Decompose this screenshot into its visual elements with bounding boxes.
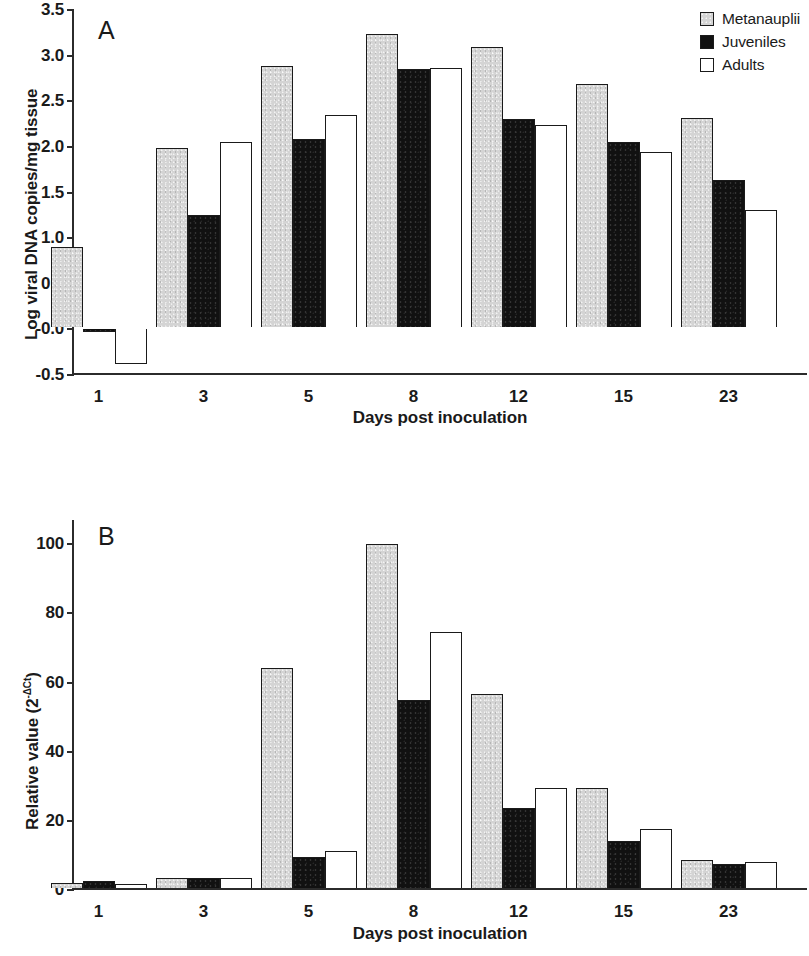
bar-adults-day-15 xyxy=(640,829,672,888)
panel-b-x-axis-label: Days post inoculation xyxy=(353,924,528,944)
x-axis-tick-label: 12 xyxy=(509,387,528,407)
panel-a-plot-area: 3.53.02.52.01.51.00.5-0.0-0.51358121523 xyxy=(72,10,807,375)
bar-adults-day-5 xyxy=(325,851,357,888)
bar-juveniles-day-8 xyxy=(398,700,430,888)
bar-juveniles-day-15 xyxy=(608,841,640,888)
bar-metanauplii-day-23 xyxy=(681,118,713,327)
bar-adults-day-23 xyxy=(745,210,777,328)
y-axis-tick-mark xyxy=(67,820,74,822)
bar-juveniles-day-3 xyxy=(188,215,220,327)
y-axis-tick-mark xyxy=(67,100,74,102)
figure-two-panel-bar-charts: A Log viral DNA copies/mg tissue 3.53.02… xyxy=(0,0,809,956)
bar-metanauplii-day-8 xyxy=(366,34,398,328)
bar-metanauplii-day-8 xyxy=(366,544,398,888)
bar-juveniles-day-23 xyxy=(713,864,745,888)
bar-metanauplii-day-15 xyxy=(576,84,608,328)
bar-adults-day-3 xyxy=(220,142,252,327)
legend-label-adults: Adults xyxy=(722,56,764,74)
y-axis-tick-mark xyxy=(67,682,74,684)
legend-item-metanauplii: Metanauplii xyxy=(700,8,800,29)
y-axis-tick-mark xyxy=(67,374,74,376)
x-axis-tick-label: 8 xyxy=(409,902,418,922)
y-axis-tick-mark xyxy=(67,612,74,614)
x-axis-tick-label: 12 xyxy=(509,902,528,922)
bar-adults-day-12 xyxy=(535,788,567,888)
bar-adults-day-23 xyxy=(745,862,777,888)
legend: Metanauplii Juveniles Adults xyxy=(700,8,800,77)
x-axis-tick-label: 23 xyxy=(719,387,738,407)
bar-adults-day-5 xyxy=(325,115,357,328)
bar-juveniles-day-5 xyxy=(293,857,325,888)
bar-juveniles-day-23 xyxy=(713,180,745,328)
bar-juveniles-day-1 xyxy=(83,329,115,332)
x-axis-tick-label: 15 xyxy=(614,387,633,407)
panel-b-y-axis-label-exponent: -ΔCt xyxy=(22,678,33,699)
bar-juveniles-day-3 xyxy=(188,878,220,888)
legend-swatch-adults-icon xyxy=(700,58,714,72)
x-axis-tick-label: 15 xyxy=(614,902,633,922)
x-axis-tick-label: 1 xyxy=(94,902,103,922)
legend-item-adults: Adults xyxy=(700,54,800,75)
panel-a-y-axis-label: Log viral DNA copies/mg tissue xyxy=(22,89,42,340)
legend-swatch-juveniles-icon xyxy=(700,35,714,49)
y-axis-tick-mark xyxy=(67,237,74,239)
bar-adults-day-15 xyxy=(640,152,672,327)
bar-adults-day-8 xyxy=(430,68,462,327)
x-axis-tick-label: 23 xyxy=(719,902,738,922)
y-axis-tick-mark xyxy=(67,146,74,148)
bar-metanauplii-day-23 xyxy=(681,860,713,888)
bar-metanauplii-day-5 xyxy=(261,66,293,328)
panel-a-x-axis-label: Days post inoculation xyxy=(353,408,528,428)
x-axis-tick-label: 3 xyxy=(199,902,208,922)
bar-juveniles-day-1 xyxy=(83,881,115,888)
bar-metanauplii-day-5 xyxy=(261,668,293,888)
bar-adults-day-1 xyxy=(115,884,147,888)
bar-juveniles-day-15 xyxy=(608,142,640,327)
panel-b-y-axis-label: Relative value (2-ΔCt) xyxy=(22,672,43,830)
bar-juveniles-day-12 xyxy=(503,119,535,327)
panel-b: B Relative value (2-ΔCt) 100806040200135… xyxy=(0,500,809,956)
y-axis-tick-mark xyxy=(67,192,74,194)
bar-metanauplii-day-12 xyxy=(471,694,503,888)
legend-label-metanauplii: Metanauplii xyxy=(722,10,800,28)
y-axis-tick-mark xyxy=(67,889,74,891)
y-axis-tick-mark xyxy=(67,9,74,11)
x-axis-tick-label: 1 xyxy=(94,387,103,407)
bar-metanauplii-day-1 xyxy=(51,247,83,327)
bar-adults-day-1 xyxy=(115,329,147,364)
panel-b-plot-area: 1008060402001358121523 xyxy=(72,520,807,890)
bar-juveniles-day-8 xyxy=(398,69,430,327)
bar-metanauplii-day-1 xyxy=(51,883,83,888)
bar-adults-day-8 xyxy=(430,632,462,888)
y-axis-tick-mark xyxy=(67,543,74,545)
y-axis-tick-mark xyxy=(67,328,74,330)
bar-juveniles-day-12 xyxy=(503,808,535,888)
bar-juveniles-day-5 xyxy=(293,139,325,327)
panel-a: A Log viral DNA copies/mg tissue 3.53.02… xyxy=(0,0,809,440)
bar-metanauplii-day-3 xyxy=(156,148,188,328)
legend-label-juveniles: Juveniles xyxy=(722,33,786,51)
legend-item-juveniles: Juveniles xyxy=(700,31,800,52)
y-axis-tick-mark xyxy=(67,55,74,57)
y-axis-tick-mark xyxy=(67,751,74,753)
bar-metanauplii-day-12 xyxy=(471,47,503,327)
bar-metanauplii-day-3 xyxy=(156,878,188,888)
x-axis-tick-label: 5 xyxy=(304,902,313,922)
x-axis-tick-label: 8 xyxy=(409,387,418,407)
bar-adults-day-12 xyxy=(535,125,567,328)
x-axis-tick-label: 3 xyxy=(199,387,208,407)
bar-metanauplii-day-15 xyxy=(576,788,608,888)
legend-swatch-metanauplii-icon xyxy=(700,12,714,26)
x-axis-tick-label: 5 xyxy=(304,387,313,407)
bar-adults-day-3 xyxy=(220,878,252,888)
